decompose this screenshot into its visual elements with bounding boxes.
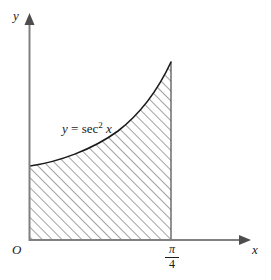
y-axis-arrowhead-icon (25, 13, 35, 25)
curve-label-function: sec (82, 121, 99, 136)
origin-label: O (12, 243, 21, 256)
curve-label-variable: x (106, 121, 112, 136)
fraction-numerator: π (163, 243, 181, 256)
figure-container: y x O y = sec2 x π 4 (0, 0, 271, 280)
graph-svg (0, 0, 271, 280)
region-hatch-fill (29, 58, 173, 241)
y-axis-label: y (13, 9, 19, 22)
curve-equation-label: y = sec2 x (62, 121, 112, 135)
fraction-denominator: 4 (163, 258, 181, 272)
shaded-region (29, 58, 173, 241)
x-axis-label: x (252, 243, 258, 256)
x-tick-label-pi-over-4: π 4 (163, 243, 181, 271)
x-axis-arrowhead-icon (239, 235, 251, 245)
